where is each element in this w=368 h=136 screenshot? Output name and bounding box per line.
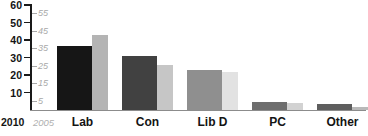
y-tick-label-2005: 45 xyxy=(38,27,56,36)
y-tick-label-2005: 35 xyxy=(38,44,56,53)
y-tick-2010 xyxy=(24,22,30,24)
y-tick-2010 xyxy=(24,74,30,76)
bar-2005 xyxy=(92,35,108,110)
bar-2005 xyxy=(352,107,368,110)
category-label-lib-d: Lib D xyxy=(183,116,243,129)
y-tick-2010 xyxy=(24,57,30,59)
category-label-lab: Lab xyxy=(53,116,113,129)
bar-2005 xyxy=(287,103,303,110)
y-tick-2005 xyxy=(32,48,37,49)
bar-2010 xyxy=(317,104,352,110)
y-tick-label-2005: 5 xyxy=(38,97,56,106)
y-tick-label-2010: 60 xyxy=(0,0,22,11)
y-tick-label-2005: 55 xyxy=(38,9,56,18)
y-axis-line xyxy=(30,4,32,111)
bar-2010 xyxy=(57,46,92,110)
y-tick-2005 xyxy=(32,83,37,84)
bar-chart: 102030405060 51525354555 LabConLib DPCOt… xyxy=(0,0,368,136)
y-tick-label-2005: 15 xyxy=(38,79,56,88)
y-tick-label-2010: 20 xyxy=(0,70,22,81)
y-tick-2005 xyxy=(32,31,37,32)
category-label-con: Con xyxy=(118,116,178,129)
y-tick-label-2010: 10 xyxy=(0,88,22,99)
y-tick-label-2005: 25 xyxy=(38,62,56,71)
y-tick-2005 xyxy=(32,101,37,102)
y-tick-label-2010: 30 xyxy=(0,53,22,64)
bar-2010 xyxy=(122,56,157,110)
bar-2010 xyxy=(252,102,287,110)
y-tick-2005 xyxy=(32,13,37,14)
y-tick-2010 xyxy=(24,92,30,94)
bar-2010 xyxy=(187,70,222,110)
y-tick-label-2010: 50 xyxy=(0,18,22,29)
category-label-other: Other xyxy=(313,116,368,129)
y-tick-label-2010: 40 xyxy=(0,35,22,46)
y-tick-2010 xyxy=(24,4,30,6)
legend-year-2010: 2010 xyxy=(1,116,24,128)
bar-2005 xyxy=(157,65,173,111)
category-label-pc: PC xyxy=(248,116,308,129)
y-tick-2005 xyxy=(32,66,37,67)
legend-year-2005: 2005 xyxy=(33,117,54,128)
bar-2005 xyxy=(222,72,238,110)
y-tick-2010 xyxy=(24,39,30,41)
